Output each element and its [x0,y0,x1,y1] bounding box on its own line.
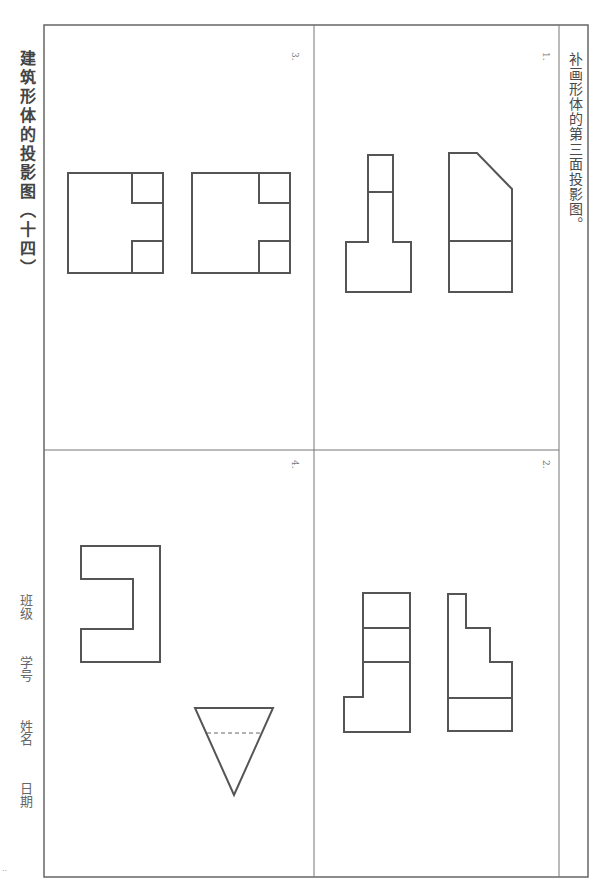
problem-4-triangle-view [195,708,273,795]
problem-4-number: 4. [290,460,300,469]
class-field[interactable] [14,628,36,650]
worksheet-page: 补画形体的第三面投影图。 建筑形体的投影图（十四） 1. 2. 3. 4. 班级… [0,0,600,882]
student-id-label: 学号 [16,656,35,682]
name-field[interactable] [14,754,36,776]
problem-4-c-shaped-view [81,546,160,662]
problem-1-chamfered-view [449,153,512,292]
projection-drawings [0,0,600,882]
class-label: 班级 [16,594,35,620]
problem-3-notched-square-right [192,173,290,273]
date-field[interactable] [14,816,36,838]
instruction-text: 补画形体的第三面投影图。 [565,52,585,232]
problem-3-number: 3. [290,52,300,61]
problem-2-stepped-view [448,594,512,731]
problem-2-number: 2. [541,460,551,469]
outer-frame [44,25,588,877]
student-id-field[interactable] [14,690,36,712]
problem-3-notched-square-left [68,173,163,273]
worksheet-title: 建筑形体的投影图（十四） [14,50,38,278]
problem-1-t-shaped-view [346,155,411,292]
date-label: 日期 [16,782,35,808]
problem-1-number: 1. [541,52,551,61]
page-number: ·· [2,866,7,875]
problem-2-l-shaped-view [344,593,410,732]
name-label: 姓名 [16,720,35,746]
